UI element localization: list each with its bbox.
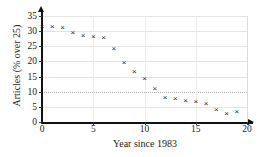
x-tick-label-15: 15: [191, 124, 201, 134]
y-tick-label-25: 25: [28, 41, 38, 51]
gridline-x-20: [247, 16, 248, 122]
y-tick-mark-35: [39, 16, 42, 17]
y-tick-mark-15: [39, 77, 42, 78]
data-point: ×: [193, 99, 199, 105]
y-tick-mark-25: [39, 46, 42, 47]
x-tick-label-0: 0: [40, 124, 45, 134]
x-tick-label-5: 5: [91, 124, 96, 134]
chart-screenshot: Articles (% over 25) Year since 1983 051…: [0, 0, 271, 157]
data-point: ×: [224, 111, 230, 117]
y-tick-mark-30: [39, 31, 42, 32]
data-point: ×: [152, 86, 158, 92]
plot-area: 05101520253035 05101520 ××××××××××××××××…: [42, 16, 247, 122]
data-point: ×: [70, 30, 76, 36]
gridline-x-10: [145, 16, 146, 122]
data-point: ×: [162, 95, 168, 101]
gridline-x-15: [196, 16, 197, 122]
x-tick-label-20: 20: [242, 124, 252, 134]
data-point: ×: [203, 101, 209, 107]
y-tick-label-10: 10: [28, 87, 38, 97]
data-point: ×: [131, 69, 137, 75]
data-point: ×: [90, 34, 96, 40]
x-tick-label-10: 10: [140, 124, 150, 134]
x-axis-title: Year since 1983: [42, 138, 248, 149]
data-point: ×: [142, 76, 148, 82]
data-point: ×: [60, 25, 66, 31]
y-tick-mark-20: [39, 61, 42, 62]
data-point: ×: [39, 24, 45, 30]
y-tick-mark-5: [39, 107, 42, 108]
y-axis-arrow-icon: [38, 6, 44, 12]
y-axis-title: Articles (% over 25): [11, 6, 22, 126]
data-point: ×: [213, 107, 219, 113]
data-point: ×: [111, 46, 117, 52]
y-tick-label-30: 30: [28, 26, 38, 36]
data-point: ×: [121, 60, 127, 66]
data-point: ×: [49, 24, 55, 30]
y-tick-mark-0: [39, 122, 42, 123]
y-tick-label-35: 35: [28, 11, 38, 21]
y-tick-label-5: 5: [32, 102, 37, 112]
data-point: ×: [172, 96, 178, 102]
y-tick-label-0: 0: [32, 117, 37, 127]
data-point: ×: [80, 33, 86, 39]
y-tick-mark-10: [39, 92, 42, 93]
data-point: ×: [234, 109, 240, 115]
y-tick-label-20: 20: [28, 56, 38, 66]
data-point: ×: [183, 98, 189, 104]
data-point: ×: [101, 35, 107, 41]
y-tick-label-15: 15: [28, 72, 38, 82]
